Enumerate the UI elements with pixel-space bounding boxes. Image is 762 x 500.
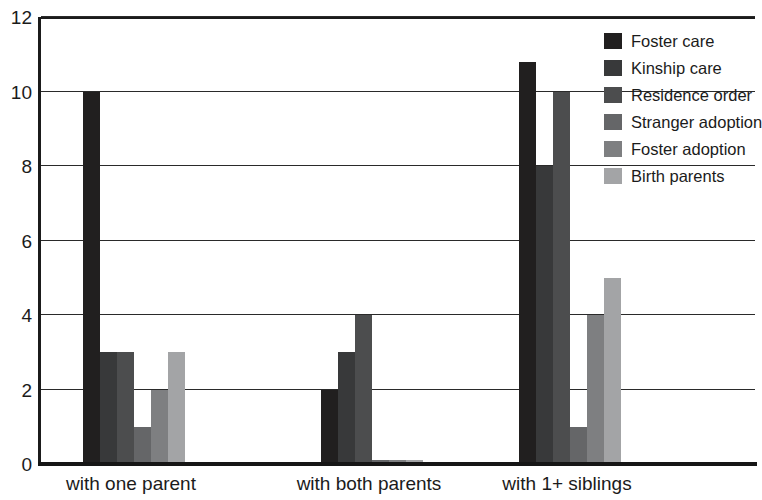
legend-item[interactable]: Birth parents — [604, 163, 756, 189]
legend-item[interactable]: Foster adoption — [604, 136, 756, 162]
legend-item-label: Foster care — [631, 33, 714, 50]
bar[interactable] — [587, 315, 604, 464]
legend-item-label: Kinship care — [631, 60, 722, 77]
bar[interactable] — [536, 166, 553, 464]
bar[interactable] — [151, 390, 168, 465]
x-axis-category-label: with both parents — [259, 474, 479, 494]
legend-item[interactable]: Residence order — [604, 82, 756, 108]
legend-swatch-icon — [604, 168, 622, 184]
bar[interactable] — [100, 352, 117, 464]
legend-item[interactable]: Foster care — [604, 28, 756, 54]
bar[interactable] — [321, 390, 338, 465]
legend-swatch-icon — [604, 114, 622, 130]
legend-item[interactable]: Kinship care — [604, 55, 756, 81]
y-axis-tick-label: 0 — [2, 455, 32, 474]
x-axis-category-label: with one parent — [21, 474, 241, 494]
y-axis: 024681012 — [0, 0, 32, 500]
bar[interactable] — [83, 92, 100, 465]
legend-item-label: Birth parents — [631, 168, 725, 185]
bar[interactable] — [570, 427, 587, 464]
legend-item-label: Stranger adoption — [631, 114, 762, 131]
gridline — [41, 16, 755, 17]
legend-item[interactable]: Stranger adoption — [604, 109, 756, 135]
legend-item-label: Residence order — [631, 87, 752, 104]
y-axis-tick-label: 10 — [2, 83, 32, 102]
bar[interactable] — [338, 352, 355, 464]
legend-swatch-icon — [604, 33, 622, 49]
legend-swatch-icon — [604, 141, 622, 157]
y-axis-tick-label: 8 — [2, 157, 32, 176]
y-axis-tick-label: 2 — [2, 381, 32, 400]
x-axis-line — [38, 462, 757, 466]
chart-legend: Foster careKinship careResidence orderSt… — [604, 28, 756, 190]
x-axis-category-label: with 1+ siblings — [457, 474, 677, 494]
bar[interactable] — [134, 427, 151, 464]
bar[interactable] — [168, 352, 185, 464]
bar-group — [321, 19, 423, 464]
bar[interactable] — [553, 92, 570, 465]
y-axis-tick-label: 6 — [2, 232, 32, 251]
legend-swatch-icon — [604, 87, 622, 103]
bar[interactable] — [117, 352, 134, 464]
y-axis-tick-label: 4 — [2, 306, 32, 325]
bar-group — [83, 19, 185, 464]
y-axis-tick-label: 12 — [2, 8, 32, 27]
bar[interactable] — [519, 62, 536, 464]
bar[interactable] — [355, 315, 372, 464]
legend-item-label: Foster adoption — [631, 141, 746, 158]
bar[interactable] — [604, 278, 621, 464]
legend-swatch-icon — [604, 60, 622, 76]
bar-chart: 024681012 with one parentwith both paren… — [0, 0, 762, 500]
